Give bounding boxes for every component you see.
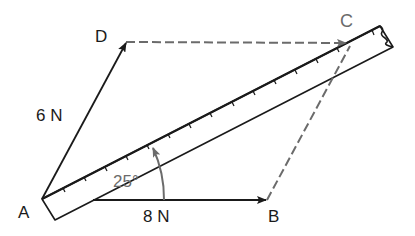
point-label-C: C (340, 12, 353, 30)
dashed-line-DC (126, 42, 346, 43)
ruler (42, 26, 393, 220)
point-label-D: D (95, 28, 107, 45)
angle-label: 25° (113, 173, 139, 190)
force-label-8N: 8 N (143, 208, 169, 225)
parallelogram-of-forces-diagram: D C 6 N 25° A 8 N B (0, 0, 415, 236)
force-label-6N: 6 N (36, 107, 62, 124)
point-label-A: A (18, 204, 29, 221)
point-label-B: B (268, 208, 279, 225)
